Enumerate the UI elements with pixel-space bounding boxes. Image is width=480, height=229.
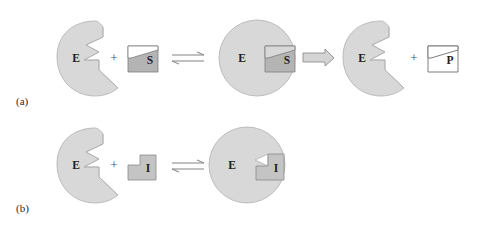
inhibitor-label-free: I	[146, 162, 151, 174]
panel-label-a: (a)	[16, 95, 29, 108]
product-label: P	[446, 54, 453, 66]
panel-label-b: (b)	[16, 202, 29, 215]
figure-canvas: E + S S E	[0, 0, 480, 229]
enzyme-label-a2: E	[238, 52, 246, 64]
plus-operator-b1: +	[110, 157, 117, 172]
substrate-shape-free	[128, 46, 158, 72]
enzyme-label-b2: E	[228, 159, 236, 171]
enzyme-label-a1: E	[72, 52, 80, 64]
enzyme-label-b1: E	[72, 159, 80, 171]
enzyme-reaction-figure: E + S S E	[0, 0, 480, 229]
plus-operator-a1: +	[110, 50, 117, 65]
substrate-label-free: S	[147, 54, 153, 66]
inhibitor-label-bound: I	[274, 162, 279, 174]
substrate-label-bound: S	[284, 54, 290, 66]
enzyme-substrate-complex: S	[219, 20, 295, 96]
enzyme-inhibitor-complex: I	[209, 127, 285, 203]
plus-operator-a2: +	[410, 50, 417, 65]
enzyme-label-a3: E	[358, 52, 366, 64]
